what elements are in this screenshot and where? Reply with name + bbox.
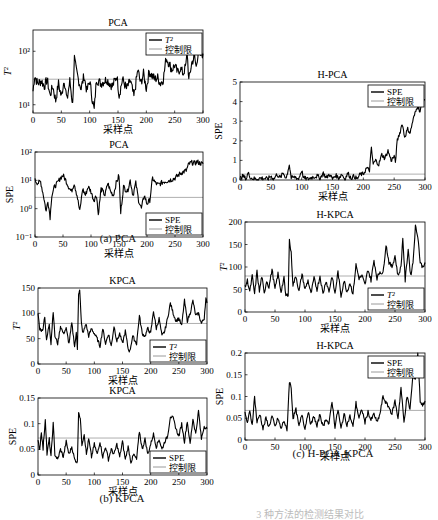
x-tick-label: 200	[357, 182, 371, 192]
x-tick-label: 300	[418, 442, 432, 452]
x-tick-label: 100	[295, 182, 309, 192]
y-axis-label: SPE	[4, 186, 15, 203]
x-axis-label: 采样点	[104, 247, 134, 259]
chart-kpca_spe: KPCA05010015020025030000.050.10.15采样点SPE…	[7, 385, 214, 497]
series-line	[240, 97, 425, 180]
x-tick-label: 0	[33, 239, 38, 249]
x-tick-label: 50	[57, 115, 67, 125]
y-tick-label: 10²	[18, 46, 30, 56]
x-tick-label: 100	[83, 115, 97, 125]
x-tick-label: 100	[88, 477, 102, 487]
x-tick-label: 300	[200, 366, 214, 376]
legend: T²控制限	[150, 340, 206, 362]
legend-series-label: T²	[387, 290, 395, 300]
chart-title: H-KPCA	[316, 340, 354, 351]
y-tick-label: 0.2	[231, 348, 242, 358]
y-tick-label: 0	[233, 175, 238, 185]
series-line	[245, 225, 425, 297]
y-tick-label: 0.1	[231, 392, 242, 402]
legend-series-label: SPE	[165, 215, 181, 225]
y-tick-label: 0.05	[19, 444, 35, 454]
chart-kpca_t2: KPCA050100150200250300050100150采样点T²T²控制…	[11, 275, 214, 386]
x-tick-label: 200	[144, 366, 158, 376]
x-tick-label: 250	[172, 366, 186, 376]
x-tick-label: 300	[418, 182, 432, 192]
chart-hkpca_t2: H-KPCA050100150200250300050100150200采样点T…	[218, 209, 432, 334]
y-tick-label: 150	[229, 240, 243, 250]
x-tick-label: 0	[36, 477, 41, 487]
y-tick-label: 0	[31, 359, 36, 369]
legend-limit-label: 控制限	[387, 367, 414, 378]
y-tick-label: 2	[233, 136, 238, 146]
y-tick-label: 0.1	[24, 419, 35, 429]
x-tick-label: 100	[298, 314, 312, 324]
y-axis-label: T²	[11, 321, 22, 331]
bottom-caption: 3 种方法的检测结果对比	[230, 506, 390, 520]
legend-limit-label: 控制限	[169, 351, 196, 362]
legend-series-label: SPE	[169, 453, 185, 463]
chart-title: PCA	[109, 139, 129, 150]
chart-title: KPCA	[109, 385, 136, 396]
caption-c: (c) H-PCA-KPCA	[283, 447, 383, 459]
caption-a: (a) PCA	[88, 232, 148, 244]
y-tick-label: 10²	[20, 147, 32, 157]
x-tick-label: 200	[140, 115, 154, 125]
x-tick-label: 250	[172, 477, 186, 487]
y-tick-label: 100	[22, 308, 36, 318]
x-axis-label: 采样点	[320, 322, 350, 334]
x-tick-label: 0	[36, 366, 41, 376]
y-tick-label: 150	[22, 283, 36, 293]
legend-limit-label: 控制限	[169, 462, 196, 473]
legend: SPE控制限	[146, 213, 202, 235]
y-tick-label: 50	[233, 285, 243, 295]
y-tick-label: 5	[233, 77, 238, 87]
y-tick-label: 10⁰	[19, 204, 32, 214]
x-tick-label: 0	[243, 442, 248, 452]
x-tick-label: 200	[358, 314, 372, 324]
y-tick-label: 50	[26, 334, 36, 344]
x-tick-label: 250	[168, 115, 182, 125]
series-line	[33, 47, 203, 109]
x-tick-label: 300	[418, 314, 432, 324]
y-axis-label: SPE	[7, 428, 18, 445]
legend-series-label: T²	[169, 342, 177, 352]
y-axis-label: T²	[2, 66, 13, 76]
chart-title: KPCA	[109, 275, 136, 286]
chart-title: PCA	[108, 17, 128, 28]
y-axis-label: SPE	[214, 388, 225, 405]
y-tick-label: 10¹	[20, 175, 32, 185]
x-tick-label: 50	[271, 442, 281, 452]
legend: T²控制限	[146, 33, 202, 55]
y-tick-label: 0.15	[226, 370, 242, 380]
chart-pca_t2: PCA05010015020025030010¹10²采样点T²T²控制限	[2, 17, 210, 135]
y-tick-label: 10⁻¹	[16, 232, 33, 242]
y-tick-label: 0.15	[19, 393, 35, 403]
chart-title: H-KPCA	[316, 209, 354, 220]
x-axis-label: 采样点	[103, 123, 133, 135]
y-tick-label: 3	[233, 116, 238, 126]
y-tick-label: 4	[233, 97, 238, 107]
x-tick-label: 50	[266, 182, 276, 192]
x-tick-label: 50	[62, 477, 72, 487]
series-line	[35, 160, 203, 220]
legend-limit-label: 控制限	[165, 224, 192, 235]
chart-title: H-PCA	[317, 69, 348, 80]
y-tick-label: 0	[238, 307, 243, 317]
legend: SPE控制限	[150, 451, 206, 473]
y-axis-label: SPE	[213, 122, 224, 139]
x-tick-label: 250	[388, 442, 402, 452]
y-tick-label: 1	[233, 155, 238, 165]
chart-hpca_spe: H-PCA050100150200250300012345采样点SPESPE控制…	[213, 69, 432, 202]
x-tick-label: 50	[59, 239, 69, 249]
legend: SPE控制限	[368, 356, 424, 378]
y-tick-label: 0	[31, 470, 36, 480]
y-tick-label: 10¹	[18, 100, 30, 110]
y-tick-label: 200	[229, 217, 243, 227]
x-tick-label: 250	[388, 314, 402, 324]
legend-series-label: SPE	[387, 358, 403, 368]
legend-limit-label: 控制限	[387, 299, 414, 310]
x-tick-label: 0	[31, 115, 36, 125]
x-tick-label: 300	[200, 477, 214, 487]
x-tick-label: 50	[62, 366, 72, 376]
x-tick-label: 300	[196, 239, 210, 249]
